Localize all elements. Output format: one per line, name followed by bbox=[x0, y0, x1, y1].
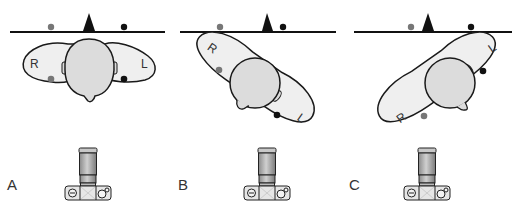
panel-label-c: C bbox=[349, 176, 360, 193]
panel-b-diagram: R L bbox=[170, 0, 341, 205]
right-marker-projection bbox=[408, 24, 414, 30]
panel-a: R L A bbox=[0, 0, 171, 205]
camera-icon bbox=[404, 148, 450, 200]
camera-icon bbox=[244, 148, 290, 200]
right-marker-projection bbox=[217, 24, 223, 30]
reference-triangle-icon bbox=[83, 13, 95, 31]
left-marker bbox=[121, 76, 128, 83]
left-marker-projection bbox=[121, 24, 127, 30]
reference-triangle-icon bbox=[422, 13, 434, 31]
panel-a-diagram: R L bbox=[0, 0, 171, 205]
panel-c-diagram: R L bbox=[341, 0, 512, 205]
panel-c: R L C bbox=[341, 0, 512, 205]
reference-triangle-icon bbox=[262, 13, 273, 31]
left-marker-projection bbox=[468, 24, 474, 30]
right-marker bbox=[48, 76, 55, 83]
label-l: L bbox=[141, 57, 148, 71]
panel-label-a: A bbox=[7, 176, 17, 193]
head-outline bbox=[65, 39, 114, 102]
label-r: R bbox=[30, 57, 39, 71]
right-marker-projection bbox=[48, 24, 54, 30]
left-marker bbox=[274, 112, 281, 119]
right-marker bbox=[421, 113, 428, 120]
panel-label-b: B bbox=[178, 176, 188, 193]
panel-b: R L B bbox=[170, 0, 341, 205]
head-outline bbox=[425, 58, 475, 108]
right-marker bbox=[216, 67, 223, 74]
left-marker bbox=[480, 68, 487, 75]
camera-icon bbox=[65, 148, 111, 200]
left-marker-projection bbox=[280, 24, 286, 30]
